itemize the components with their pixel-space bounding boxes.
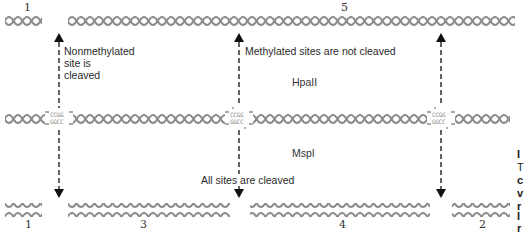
top-fragment-1 [5, 13, 42, 27]
up-arrow-icon [54, 33, 64, 42]
bottom-fragment-2-label: 2 [479, 218, 486, 231]
annotation-methylated-not-cleaved: Methylated sites are not cleaved [245, 45, 396, 57]
site-label-2: CCGG GGCC [230, 111, 243, 125]
bottom-fragment-4-label: 4 [339, 218, 346, 231]
bottom-fragment-2 [452, 203, 510, 217]
down-arrow-icon [234, 189, 244, 198]
up-arrow-icon [234, 33, 244, 42]
enzyme-label-mspi: MspI [292, 147, 315, 159]
bottom-dna-row [5, 203, 510, 217]
top-dna-row [5, 13, 515, 27]
bottom-fragment-3-label: 3 [140, 218, 147, 231]
top-fragment-5-label: 5 [341, 1, 348, 14]
top-fragment-5 [68, 13, 515, 27]
site-label-3: CCGG GGCC [432, 111, 445, 125]
bottom-fragment-4 [250, 203, 430, 217]
up-arrow-icon [436, 33, 446, 42]
site-label-1: CCGG GGCC [50, 111, 63, 125]
annotation-all-cleaved: All sites are cleaved [201, 174, 294, 186]
top-fragment-1-label: 1 [24, 1, 31, 14]
down-arrow-icon [436, 189, 446, 198]
bottom-fragment-1-label: 1 [25, 218, 32, 231]
bottom-fragment-1 [5, 203, 42, 217]
down-arrow-icon [54, 189, 64, 198]
bottom-fragment-3 [68, 203, 230, 217]
annotation-nonmethylated: Nonmethylated site is cleaved [64, 45, 135, 81]
enzyme-label-hpaii: HpaII [292, 76, 317, 88]
diagram-graphics [0, 0, 529, 235]
